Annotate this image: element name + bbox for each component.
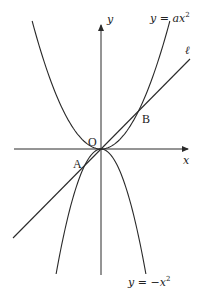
x-axis-label: x <box>183 154 190 167</box>
upper-parabola-label: y = ax2 <box>149 11 190 25</box>
point-b-label: B <box>142 112 150 126</box>
lower-label-exp: 2 <box>166 275 170 283</box>
lower-label-eq: = − <box>134 276 159 289</box>
parabola-diagram: y x O A B ℓ y = ax2 y = −x2 <box>0 0 204 293</box>
line-l-label: ℓ <box>185 44 190 57</box>
y-axis-label: y <box>106 13 114 26</box>
upper-label-ax: ax <box>172 12 186 25</box>
upper-label-exp: 2 <box>185 11 189 19</box>
point-a-label: A <box>73 157 82 171</box>
upper-label-eq: = <box>156 12 172 25</box>
origin-label: O <box>88 135 97 149</box>
lower-parabola-label: y = −x2 <box>127 275 170 289</box>
